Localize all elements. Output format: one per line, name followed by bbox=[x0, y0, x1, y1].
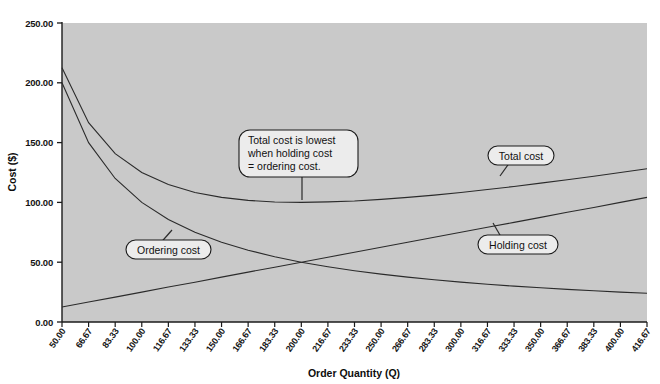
x-axis-tick-label: 166.67 bbox=[230, 326, 253, 353]
total-cost-label-text: Total cost bbox=[499, 150, 543, 162]
minimum-callout-line-3: = ordering cost. bbox=[248, 160, 321, 172]
x-axis-tick-label: 116.67 bbox=[151, 326, 174, 353]
x-axis-title: Order Quantity (Q) bbox=[308, 367, 400, 379]
x-axis-tick-label: 416.67 bbox=[629, 326, 652, 353]
x-axis-ticks bbox=[62, 322, 647, 327]
x-axis-tick-label: 150.00 bbox=[204, 326, 227, 353]
y-axis-tick-label: 0.00 bbox=[35, 317, 53, 328]
minimum-callout-line-2: when holding cost bbox=[247, 147, 332, 159]
y-axis-title: Cost ($) bbox=[6, 152, 18, 191]
chart-figure: 0.0050.00100.00150.00200.00250.00 50.006… bbox=[0, 0, 660, 384]
y-axis-tick-label: 250.00 bbox=[25, 18, 53, 29]
minimum-callout-line-1: Total cost is lowest bbox=[248, 134, 336, 146]
x-axis-tick-label: 250.00 bbox=[363, 326, 386, 353]
holding-cost-label[interactable]: Holding cost bbox=[478, 235, 558, 254]
y-axis-ticks bbox=[57, 23, 62, 322]
x-axis-tick-label: 200.00 bbox=[284, 326, 307, 353]
x-axis-tick-label: 183.33 bbox=[257, 326, 280, 353]
y-axis-tick-label: 100.00 bbox=[25, 197, 53, 208]
chart-svg: 0.0050.00100.00150.00200.00250.00 50.006… bbox=[0, 0, 660, 384]
x-axis-tick-label: 300.00 bbox=[443, 326, 466, 353]
y-axis-tick-labels: 0.0050.00100.00150.00200.00250.00 bbox=[25, 18, 53, 328]
holding-cost-label-text: Holding cost bbox=[489, 239, 547, 251]
x-axis-tick-label: 316.67 bbox=[470, 326, 493, 353]
x-axis-tick-label: 66.67 bbox=[74, 326, 95, 350]
x-axis-tick-label: 350.00 bbox=[523, 326, 546, 353]
minimum-callout[interactable]: Total cost is lowest when holding cost =… bbox=[239, 130, 358, 177]
x-axis-tick-label: 283.33 bbox=[417, 326, 440, 353]
x-axis-tick-label: 216.67 bbox=[310, 326, 333, 353]
total-cost-label[interactable]: Total cost bbox=[488, 146, 554, 165]
ordering-cost-label-text: Ordering cost bbox=[137, 244, 200, 256]
x-axis-tick-label: 133.33 bbox=[177, 326, 200, 353]
x-axis-tick-label: 266.67 bbox=[390, 326, 413, 353]
x-axis-tick-labels: 50.0066.6783.33100.00116.67133.33150.001… bbox=[47, 326, 653, 353]
y-axis-tick-label: 150.00 bbox=[25, 137, 53, 148]
x-axis-tick-label: 233.33 bbox=[337, 326, 360, 353]
x-axis-tick-label: 100.00 bbox=[124, 326, 147, 353]
y-axis-tick-label: 200.00 bbox=[25, 77, 53, 88]
x-axis-tick-label: 366.67 bbox=[550, 326, 573, 353]
x-axis-tick-label: 83.33 bbox=[100, 326, 121, 350]
x-axis-tick-label: 400.00 bbox=[603, 326, 626, 353]
x-axis-tick-label: 50.00 bbox=[47, 326, 68, 350]
y-axis-tick-label: 50.00 bbox=[30, 257, 53, 268]
x-axis-tick-label: 383.33 bbox=[576, 326, 599, 353]
ordering-cost-label[interactable]: Ordering cost bbox=[126, 240, 211, 259]
x-axis-tick-label: 333.33 bbox=[496, 326, 519, 353]
